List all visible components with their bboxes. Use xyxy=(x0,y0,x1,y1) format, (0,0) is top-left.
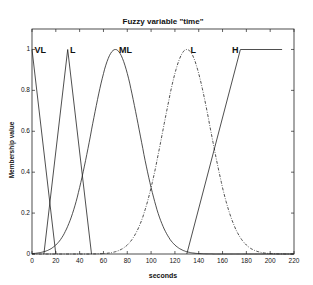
svg-text:20: 20 xyxy=(52,257,60,264)
svg-text:0.4: 0.4 xyxy=(21,168,30,175)
svg-text:0.8: 0.8 xyxy=(21,86,30,93)
svg-text:40: 40 xyxy=(76,257,84,264)
svg-text:60: 60 xyxy=(100,257,108,264)
x-axis-ticks: 020406080100120140160180200220 xyxy=(30,29,300,264)
curve-labels: VLLMLLH xyxy=(34,45,238,55)
svg-text:L: L xyxy=(190,45,196,55)
svg-text:0.2: 0.2 xyxy=(21,209,30,216)
svg-text:0: 0 xyxy=(30,257,34,264)
svg-text:0.6: 0.6 xyxy=(21,127,30,134)
y-axis-ticks: 00.20.40.60.81 xyxy=(21,45,294,257)
svg-text:L: L xyxy=(70,45,76,55)
y-axis-label: Membership value xyxy=(8,121,16,178)
svg-text:H: H xyxy=(232,45,239,55)
svg-text:160: 160 xyxy=(217,257,228,264)
svg-text:ML: ML xyxy=(119,45,132,55)
svg-text:120: 120 xyxy=(169,257,180,264)
svg-text:180: 180 xyxy=(241,257,252,264)
x-axis-label: seconds xyxy=(149,272,178,279)
plot-frame xyxy=(32,29,294,254)
membership-chart: Fuzzy variable "time" 020406080100120140… xyxy=(0,0,313,285)
svg-text:220: 220 xyxy=(289,257,300,264)
svg-text:1: 1 xyxy=(26,45,30,52)
svg-text:200: 200 xyxy=(265,257,276,264)
svg-text:VL: VL xyxy=(34,45,46,55)
svg-text:140: 140 xyxy=(193,257,204,264)
svg-text:80: 80 xyxy=(124,257,132,264)
membership-curves xyxy=(32,50,294,255)
svg-text:100: 100 xyxy=(146,257,157,264)
chart-title: Fuzzy variable "time" xyxy=(123,17,204,26)
svg-text:0: 0 xyxy=(26,250,30,257)
